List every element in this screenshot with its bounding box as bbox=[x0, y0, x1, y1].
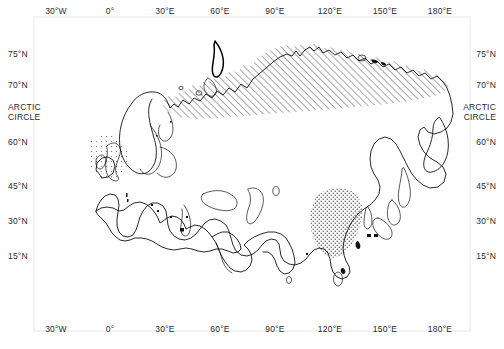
lat-label-right-45n: 45°N bbox=[476, 181, 496, 191]
map-svg bbox=[0, 0, 504, 349]
lat-label-right-arctic-line2: CIRCLE bbox=[464, 113, 496, 123]
lat-label-left-75n: 75°N bbox=[8, 49, 28, 59]
lon-label-bottom-5: 120°E bbox=[318, 324, 342, 334]
inland-marks bbox=[126, 121, 308, 255]
northern-siberia-hatched-zone bbox=[163, 43, 449, 119]
lon-label-bottom-0: 30°W bbox=[45, 324, 67, 334]
lon-label-top-2: 30°E bbox=[155, 6, 174, 16]
lat-label-right-60n: 60°N bbox=[476, 137, 496, 147]
lon-label-top-0: 30°W bbox=[45, 6, 67, 16]
lat-label-left-45n: 45°N bbox=[8, 181, 28, 191]
lon-label-top-3: 60°E bbox=[210, 6, 229, 16]
lon-label-top-7: 180°E bbox=[428, 6, 452, 16]
lon-label-top-1: 0° bbox=[106, 6, 115, 16]
lon-label-top-6: 150°E bbox=[373, 6, 397, 16]
lon-label-bottom-1: 0° bbox=[106, 324, 115, 334]
south-asia-coastline bbox=[263, 243, 295, 283]
lat-label-left-15n: 15°N bbox=[8, 251, 28, 261]
lon-label-top-5: 120°E bbox=[318, 6, 342, 16]
lon-label-bottom-7: 180°E bbox=[428, 324, 452, 334]
lat-label-right-70n: 70°N bbox=[476, 80, 496, 90]
lat-label-right-75n: 75°N bbox=[476, 49, 496, 59]
lat-label-left-60n: 60°N bbox=[8, 137, 28, 147]
lat-label-right-30n: 30°N bbox=[476, 216, 496, 226]
lon-label-bottom-6: 150°E bbox=[373, 324, 397, 334]
eastern-china-stippled-zone bbox=[310, 188, 362, 258]
lat-label-left-70n: 70°N bbox=[8, 80, 28, 90]
lat-label-left-30n: 30°N bbox=[8, 216, 28, 226]
lon-label-bottom-2: 30°E bbox=[155, 324, 174, 334]
lat-label-right-15n: 15°N bbox=[476, 251, 496, 261]
korean-peninsula bbox=[364, 207, 372, 229]
lat-label-left-arctic-line2: CIRCLE bbox=[8, 113, 40, 123]
lon-label-bottom-3: 60°E bbox=[210, 324, 229, 334]
lon-label-top-4: 90°E bbox=[265, 6, 284, 16]
map-figure: 30°W 0° 30°E 60°E 90°E 120°E 150°E 180°E… bbox=[0, 0, 504, 349]
mediterranean-europe bbox=[96, 187, 279, 253]
lon-label-bottom-4: 90°E bbox=[265, 324, 284, 334]
